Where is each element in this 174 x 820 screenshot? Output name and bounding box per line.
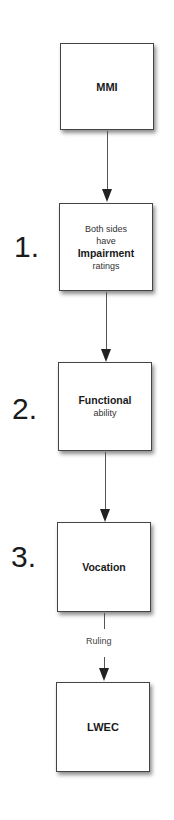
node-functional-line-2: ability — [93, 407, 116, 419]
node-lwec-label: LWEC — [87, 721, 119, 733]
step-number-2: 2. — [12, 392, 37, 426]
node-vocation: Vocation — [57, 522, 151, 612]
edge-functional-vocation — [105, 452, 106, 509]
node-impairment-line-4: ratings — [92, 260, 119, 272]
arrowhead-icon — [100, 509, 110, 522]
edge-vocation-lwec — [104, 613, 105, 629]
node-impairment-line-2: have — [96, 235, 116, 247]
edge-mmi-impairment — [107, 131, 108, 189]
step-number-3: 3. — [11, 540, 36, 574]
arrowhead-icon — [101, 349, 111, 362]
node-functional-line-1: Functional — [78, 394, 131, 407]
node-functional: Functional ability — [58, 362, 152, 451]
node-lwec: LWEC — [56, 682, 150, 772]
node-vocation-label: Vocation — [82, 561, 126, 574]
node-impairment: Both sides have Impairment ratings — [59, 203, 153, 291]
step-number-1: 1. — [14, 230, 39, 264]
node-mmi: MMI — [60, 43, 154, 130]
node-impairment-line-3: Impairment — [78, 247, 135, 260]
arrowhead-icon — [99, 668, 109, 681]
arrowhead-icon — [102, 189, 112, 202]
edge-label-ruling: Ruling — [86, 636, 112, 646]
node-mmi-label: MMI — [96, 81, 117, 93]
node-impairment-line-1: Both sides — [85, 223, 127, 235]
edge-impairment-functional — [106, 292, 107, 349]
